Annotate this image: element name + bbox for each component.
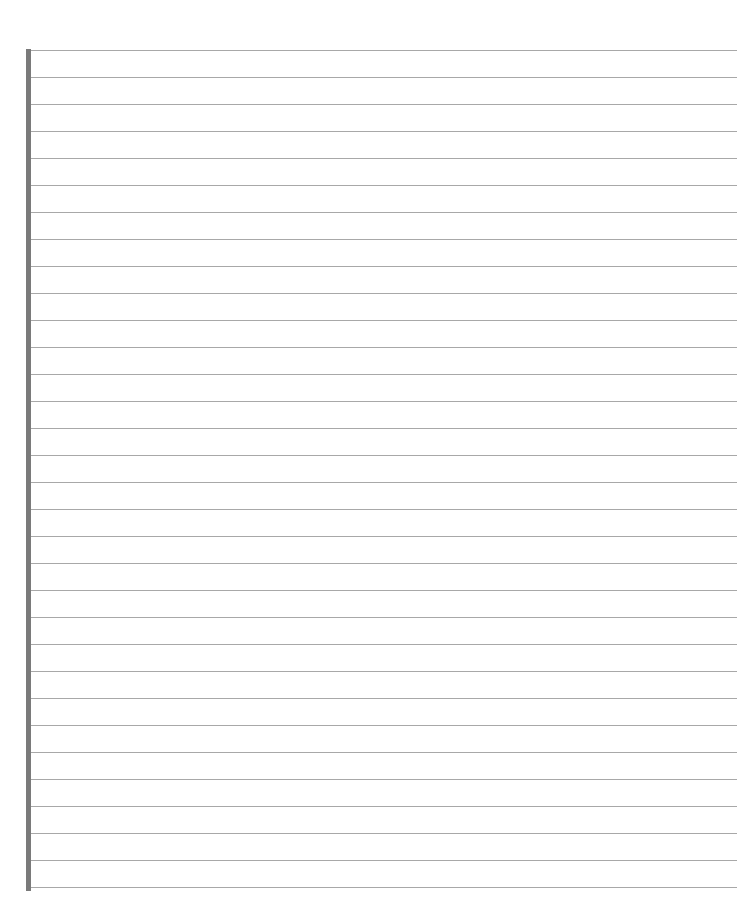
ruled-line xyxy=(31,752,737,753)
ruled-lines xyxy=(31,0,737,919)
ruled-line xyxy=(31,779,737,780)
ruled-line xyxy=(31,455,737,456)
ruled-line xyxy=(31,131,737,132)
ruled-line xyxy=(31,428,737,429)
ruled-line xyxy=(31,401,737,402)
ruled-line xyxy=(31,374,737,375)
ruled-line xyxy=(31,293,737,294)
ruled-line xyxy=(31,860,737,861)
ruled-line xyxy=(31,725,737,726)
ruled-line xyxy=(31,563,737,564)
lined-paper-page xyxy=(0,0,742,919)
ruled-line xyxy=(31,158,737,159)
ruled-line xyxy=(31,104,737,105)
ruled-line xyxy=(31,698,737,699)
ruled-line xyxy=(31,590,737,591)
ruled-line xyxy=(31,833,737,834)
ruled-line xyxy=(31,536,737,537)
ruled-line xyxy=(31,185,737,186)
ruled-line xyxy=(31,77,737,78)
ruled-line xyxy=(31,617,737,618)
ruled-line xyxy=(31,887,737,888)
ruled-line xyxy=(31,509,737,510)
ruled-line xyxy=(31,806,737,807)
ruled-line xyxy=(31,212,737,213)
ruled-line xyxy=(31,347,737,348)
ruled-line xyxy=(31,644,737,645)
ruled-line xyxy=(31,671,737,672)
ruled-line xyxy=(31,50,737,51)
ruled-line xyxy=(31,320,737,321)
ruled-line xyxy=(31,239,737,240)
ruled-line xyxy=(31,266,737,267)
ruled-line xyxy=(31,482,737,483)
